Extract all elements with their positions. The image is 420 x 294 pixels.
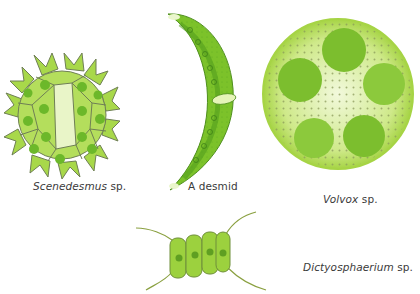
label-star-colony: Scenedesmus sp.	[33, 180, 126, 192]
label-volvox: Volvox sp.	[323, 193, 378, 205]
volvox-drawing	[263, 19, 413, 169]
desmid-drawing	[168, 14, 237, 190]
label-four-cell-colony: Dictyosphaerium sp.	[303, 261, 413, 273]
label-desmid: A desmid	[188, 180, 238, 192]
algae-illustration	[0, 0, 420, 294]
star-colony-drawing	[4, 53, 120, 179]
four-cell-colony-drawing	[136, 212, 266, 290]
